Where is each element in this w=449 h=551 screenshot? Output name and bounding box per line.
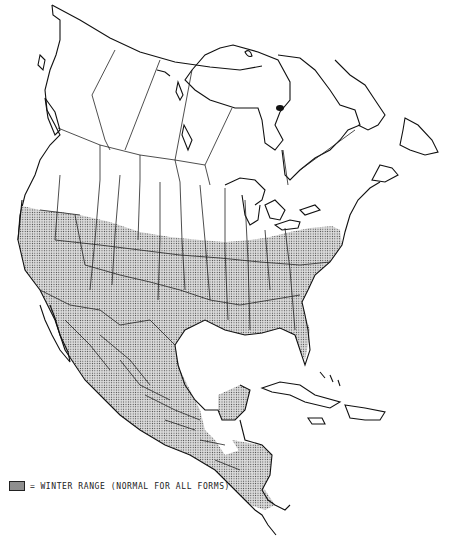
- caribbean-islands: [262, 372, 385, 424]
- northern-landmass: [18, 5, 438, 240]
- legend-label: WINTER RANGE (NORMAL FOR ALL FORMS): [40, 482, 230, 491]
- map-legend: = WINTER RANGE (NORMAL FOR ALL FORMS): [9, 481, 230, 491]
- stipple-swatch-icon: [9, 481, 25, 491]
- range-map: [0, 0, 449, 551]
- legend-separator: =: [30, 482, 35, 491]
